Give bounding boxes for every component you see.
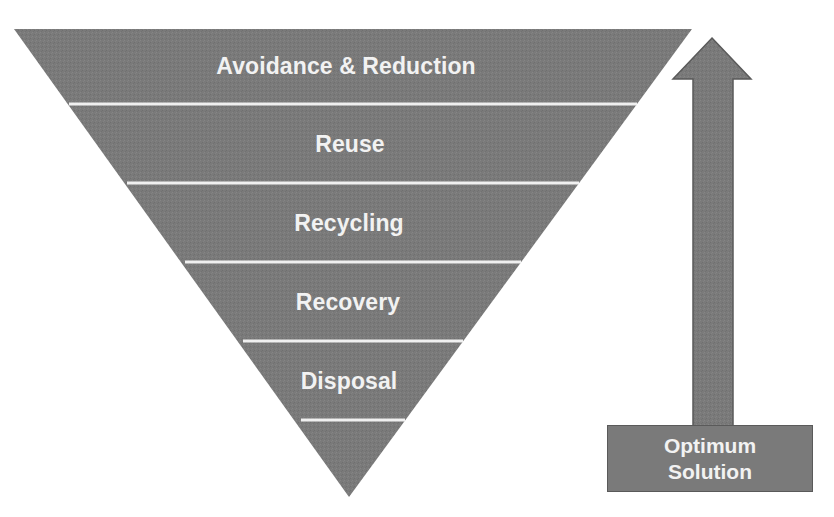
tier-avoidance-reduction: Avoidance & Reduction (216, 55, 475, 78)
tier-reuse: Reuse (315, 133, 385, 156)
tier-recovery: Recovery (296, 291, 400, 314)
tier-recycling: Recycling (294, 212, 404, 235)
tier-disposal: Disposal (301, 370, 398, 393)
up-arrow-icon (673, 38, 751, 426)
optimum-solution-label: Optimum Solution (650, 433, 770, 485)
optimum-solution-line2: Solution (650, 459, 770, 485)
optimum-solution-line1: Optimum (650, 433, 770, 459)
optimum-solution-box: Optimum Solution (607, 425, 813, 492)
waste-hierarchy-diagram: Avoidance & Reduction Reuse Recycling Re… (0, 0, 834, 517)
